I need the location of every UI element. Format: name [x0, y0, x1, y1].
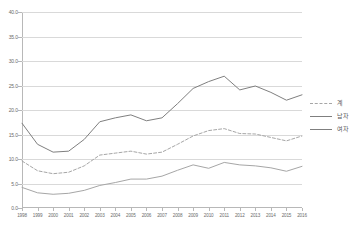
- x-axis-tick-label: 2012: [235, 213, 245, 218]
- x-axis-tick-label: 2004: [111, 213, 121, 218]
- legend-item-total: 계: [310, 97, 358, 110]
- x-axis-tick: [146, 208, 147, 211]
- series-layer: [22, 12, 302, 208]
- x-axis-tick-label: 2014: [266, 213, 276, 218]
- legend-item-female: 여자: [310, 123, 358, 136]
- legend: 계 남자 여자: [310, 97, 358, 136]
- x-axis-tick: [286, 208, 287, 211]
- x-axis-tick-label: 2002: [79, 213, 89, 218]
- x-axis-tick-label: 2015: [282, 213, 292, 218]
- x-axis-tick: [131, 208, 132, 211]
- x-axis-tick: [271, 208, 272, 211]
- x-axis-tick: [53, 208, 54, 211]
- y-axis-tick-label: 20.0: [9, 108, 18, 113]
- x-axis-tick-label: 2001: [64, 213, 74, 218]
- x-axis-tick: [162, 208, 163, 211]
- x-axis-tick-label: 2009: [188, 213, 198, 218]
- x-axis-tick: [84, 208, 85, 211]
- x-axis-tick: [22, 208, 23, 211]
- x-axis-tick: [38, 208, 39, 211]
- plot-area: 40.035.030.025.020.015.010.05.00.0 19981…: [22, 12, 302, 208]
- x-axis-tick: [240, 208, 241, 211]
- x-axis-tick-label: 2006: [142, 213, 152, 218]
- x-axis-tick-label: 1999: [33, 213, 43, 218]
- legend-item-male: 남자: [310, 110, 358, 123]
- x-axis-tick-label: 1998: [17, 213, 27, 218]
- series-line-남자: [22, 76, 302, 152]
- series-line-여자: [22, 162, 302, 194]
- x-axis-tick: [115, 208, 116, 211]
- legend-swatch-female-icon: [310, 129, 332, 130]
- y-axis-tick-label: 10.0: [9, 157, 18, 162]
- y-axis-tick-label: 35.0: [9, 34, 18, 39]
- legend-label-female: 여자: [337, 126, 349, 133]
- legend-label-total: 계: [337, 100, 343, 107]
- y-axis-tick-label: 0.0: [11, 206, 18, 211]
- x-axis-tick-label: 2011: [220, 213, 229, 218]
- x-axis-tick: [178, 208, 179, 211]
- y-axis-tick-label: 5.0: [11, 181, 18, 186]
- x-axis-tick-label: 2007: [157, 213, 167, 218]
- x-axis-tick-label: 2010: [204, 213, 214, 218]
- x-axis-tick: [255, 208, 256, 211]
- y-axis-tick-label: 25.0: [9, 83, 18, 88]
- x-axis-tick-label: 2000: [48, 213, 58, 218]
- line-chart: 40.035.030.025.020.015.010.05.00.0 19981…: [0, 0, 360, 238]
- x-axis-tick: [209, 208, 210, 211]
- x-axis-tick: [302, 208, 303, 211]
- x-axis-tick: [100, 208, 101, 211]
- x-axis-tick-label: 2008: [173, 213, 183, 218]
- x-axis-tick: [193, 208, 194, 211]
- x-axis-tick-label: 2005: [126, 213, 136, 218]
- x-axis-tick-label: 2003: [95, 213, 105, 218]
- legend-label-male: 남자: [337, 113, 349, 120]
- y-axis-tick-label: 40.0: [9, 10, 18, 15]
- legend-swatch-male-icon: [310, 116, 332, 117]
- x-axis-tick-label: 2013: [251, 213, 261, 218]
- x-axis-tick-label: 2016: [297, 213, 307, 218]
- y-axis-tick-label: 30.0: [9, 59, 18, 64]
- x-axis-tick: [224, 208, 225, 211]
- x-axis-tick: [69, 208, 70, 211]
- y-axis-tick-label: 15.0: [9, 132, 18, 137]
- legend-swatch-total-icon: [310, 103, 332, 104]
